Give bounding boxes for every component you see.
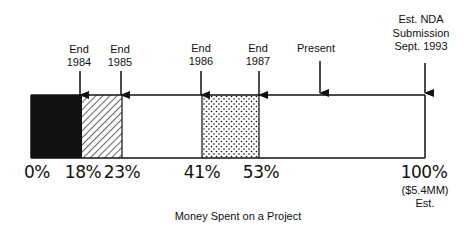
tick-label-41: 41%: [184, 162, 221, 182]
annotation-end-1987-line1: End: [248, 42, 268, 54]
tick-label-23: 23%: [104, 162, 141, 182]
tick-label-100: 100%: [401, 162, 448, 182]
segment-23-41-blank: [122, 95, 202, 158]
annotation-end-1986-line2: 1986: [189, 55, 213, 67]
annotation-end-1984-line1: End: [69, 43, 89, 55]
annotation-end-1985-line1: End: [110, 43, 130, 55]
annotation-end-1987-line2: 1987: [246, 55, 270, 67]
estimate-note: Est.: [416, 197, 435, 209]
annotation-nda-line2: Submission: [393, 27, 450, 39]
annotation-end-1984-line2: 1984: [67, 56, 91, 68]
tick-label-18: 18%: [65, 162, 102, 182]
segment-0-18-black: [31, 95, 82, 158]
segment-53-100-blank: [259, 95, 425, 158]
money-spent-chart: End 1984 End 1985 End 1986 End 1987 Pres…: [0, 0, 474, 233]
chart-title: Money Spent on a Project: [175, 210, 302, 222]
total-amount-note: ($5.4MM): [401, 184, 448, 196]
tick-label-0: 0%: [24, 162, 50, 182]
annotation-end-1986-line1: End: [191, 42, 211, 54]
tick-label-53: 53%: [243, 162, 280, 182]
annotation-nda-line3: Sept. 1993: [394, 40, 447, 52]
annotation-nda-line1: Est. NDA: [398, 13, 444, 25]
annotation-present: Present: [297, 42, 335, 54]
segment-18-23-hatch: [82, 95, 122, 158]
segment-41-53-dots: [202, 95, 259, 158]
annotation-end-1985-line2: 1985: [108, 56, 132, 68]
